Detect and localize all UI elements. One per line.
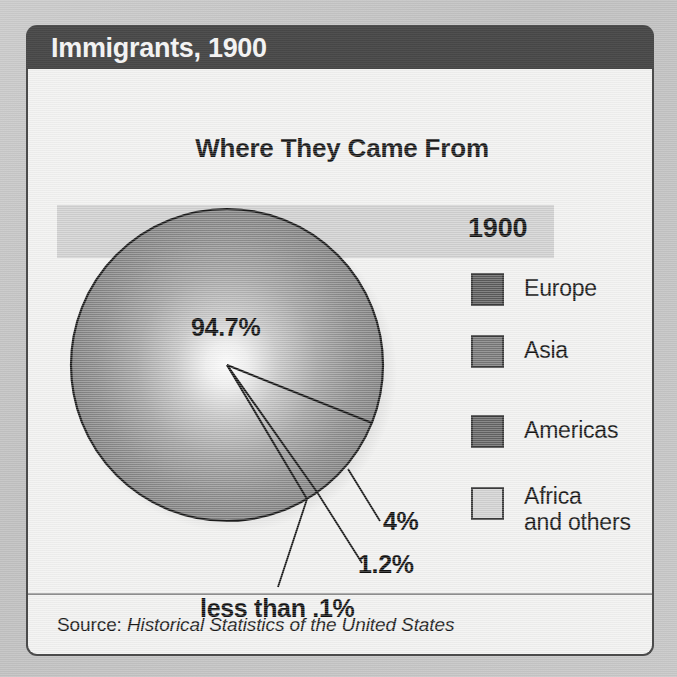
legend-item-americas: Americas bbox=[471, 415, 618, 448]
chart-body: Where They Came From 1900 bbox=[26, 69, 654, 656]
source-divider bbox=[28, 593, 654, 595]
legend-swatch-europe bbox=[471, 273, 504, 306]
legend-item-europe: Europe bbox=[471, 273, 597, 306]
legend-item-africa: Africa and others bbox=[471, 487, 631, 535]
legend-item-asia: Asia bbox=[471, 335, 568, 368]
legend-label-asia: Asia bbox=[524, 337, 568, 363]
legend-label-americas: Americas bbox=[524, 417, 618, 443]
legend-swatch-asia bbox=[471, 335, 504, 368]
card-header-bar: Immigrants, 1900 bbox=[26, 25, 654, 70]
pie-label-asia: 4% bbox=[383, 507, 419, 536]
legend-swatch-americas bbox=[471, 415, 504, 448]
source-prefix: Source: bbox=[57, 614, 127, 635]
pie-label-europe: 94.7% bbox=[191, 313, 260, 342]
leader-line-asia bbox=[348, 469, 380, 521]
page-title: Immigrants, 1900 bbox=[51, 33, 267, 64]
source-title: Historical Statistics of the United Stat… bbox=[127, 614, 454, 635]
pie-label-americas: 1.2% bbox=[358, 550, 414, 579]
legend-label-africa: Africa and others bbox=[524, 483, 631, 535]
source-note: Source: Historical Statistics of the Uni… bbox=[57, 614, 454, 636]
chart-card: Immigrants, 1900 Where They Came From 19… bbox=[26, 25, 654, 656]
leader-line-americas bbox=[317, 492, 362, 563]
legend-label-europe: Europe bbox=[524, 275, 597, 301]
legend-swatch-africa bbox=[471, 487, 504, 520]
